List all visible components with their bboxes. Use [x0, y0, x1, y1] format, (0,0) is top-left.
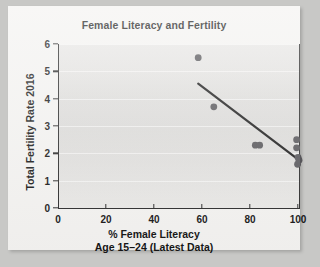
x-tick-label: 0 [55, 214, 61, 225]
y-tick-label: 5 [44, 66, 50, 77]
x-axis-label: % Female Literacy Age 15–24 (Latest Data… [8, 228, 300, 254]
x-tick-label: 100 [290, 214, 307, 225]
x-tick-mark [105, 204, 106, 209]
data-point [293, 144, 300, 151]
y-tick-label: 4 [44, 93, 50, 104]
x-tick-mark [153, 204, 154, 209]
x-axis-ticks: 020406080100 [58, 209, 298, 229]
y-tick-label: 6 [44, 39, 50, 50]
data-point [293, 136, 300, 143]
y-tick-label: 3 [44, 121, 50, 132]
chart-card: Female Literacy and Fertility Total Fert… [8, 6, 300, 250]
plot-area [58, 44, 300, 209]
chart-title: Female Literacy and Fertility [8, 19, 300, 31]
x-axis-label-line2: Age 15–24 (Latest Data) [8, 241, 300, 254]
y-tick-label: 1 [44, 175, 50, 186]
x-tick-mark [249, 204, 250, 209]
y-tick-label: 0 [44, 203, 50, 214]
x-tick-mark [297, 204, 298, 209]
x-tick-label: 20 [100, 214, 111, 225]
x-axis-label-line1: % Female Literacy [8, 228, 300, 241]
data-point [210, 103, 217, 110]
x-tick-label: 60 [196, 214, 207, 225]
y-axis-ticks: 0123456 [8, 44, 58, 208]
y-tick-label: 2 [44, 148, 50, 159]
trendline [198, 84, 299, 161]
data-point [256, 142, 263, 149]
chart-screenshot: Female Literacy and Fertility Total Fert… [0, 0, 320, 267]
x-tick-label: 40 [148, 214, 159, 225]
x-tick-mark [201, 204, 202, 209]
data-point [296, 157, 303, 164]
data-point [195, 54, 202, 61]
x-tick-label: 80 [244, 214, 255, 225]
data-layer [59, 44, 299, 208]
